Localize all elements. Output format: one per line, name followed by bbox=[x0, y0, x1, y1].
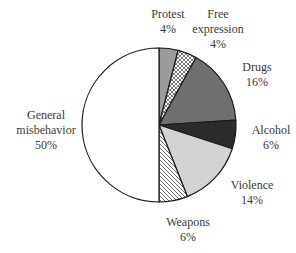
pie-slice-general-misbehavior bbox=[82, 48, 159, 202]
label-text: Protest bbox=[148, 7, 188, 22]
label-text: Alcohol bbox=[246, 123, 296, 138]
label-text: expression bbox=[188, 22, 248, 37]
label-general-misbehavior: General misbehavior 50% bbox=[8, 108, 84, 153]
label-value: 6% bbox=[158, 230, 218, 245]
label-value: 6% bbox=[246, 138, 296, 153]
label-text: Drugs bbox=[232, 60, 282, 75]
label-value: 14% bbox=[222, 193, 282, 208]
label-text: Violence bbox=[222, 178, 282, 193]
label-protest: Protest 4% bbox=[148, 7, 188, 37]
label-text: misbehavior bbox=[8, 123, 84, 138]
label-text: Free bbox=[188, 7, 248, 22]
pie-slices bbox=[82, 48, 236, 202]
label-free-expression: Free expression 4% bbox=[188, 7, 248, 52]
label-value: 16% bbox=[232, 75, 282, 90]
label-text: Weapons bbox=[158, 215, 218, 230]
label-violence: Violence 14% bbox=[222, 178, 282, 208]
label-value: 4% bbox=[188, 37, 248, 52]
label-text: General bbox=[8, 108, 84, 123]
label-value: 4% bbox=[148, 22, 188, 37]
label-drugs: Drugs 16% bbox=[232, 60, 282, 90]
label-alcohol: Alcohol 6% bbox=[246, 123, 296, 153]
label-weapons: Weapons 6% bbox=[158, 215, 218, 245]
label-value: 50% bbox=[8, 138, 84, 153]
